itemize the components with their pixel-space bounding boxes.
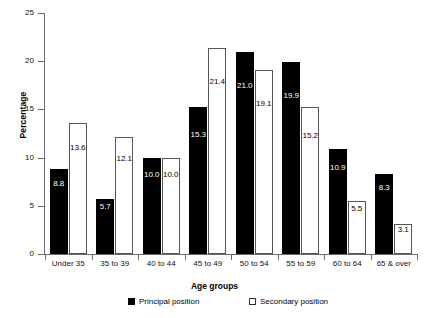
bar-value-label: 5.5 <box>345 205 369 213</box>
y-tick-label: 5 <box>0 202 34 210</box>
y-tick-label: 15 <box>0 105 34 113</box>
legend-label-principal: Principal position <box>139 297 199 306</box>
y-tick <box>38 61 44 62</box>
x-tick-label: 40 to 44 <box>138 259 185 268</box>
bar-value-label: 10.0 <box>159 171 183 179</box>
legend-swatch-principal-icon <box>128 298 135 305</box>
y-tick <box>38 158 44 159</box>
plot-area: 8.813.65.712.110.010.015.321.421.019.119… <box>45 13 417 254</box>
bar-value-label: 5.7 <box>93 203 117 211</box>
x-tick-label: 35 to 39 <box>92 259 139 268</box>
x-tick-label: 55 to 59 <box>278 259 325 268</box>
y-axis-title: Percentage <box>18 70 28 160</box>
bar-value-label: 13.6 <box>66 144 90 152</box>
x-axis-title: Age groups <box>0 281 429 291</box>
legend-item-secondary: Secondary position <box>249 297 328 306</box>
y-tick <box>38 206 44 207</box>
x-tick-label: 60 to 64 <box>324 259 371 268</box>
bar-value-label: 8.8 <box>47 180 71 188</box>
x-tick-label: 65 & over <box>371 259 418 268</box>
bar-value-label: 15.2 <box>298 132 322 140</box>
bar-secondary <box>255 70 273 254</box>
y-tick <box>38 109 44 110</box>
bar-principal <box>189 107 207 254</box>
bar-value-label: 21.4 <box>205 78 229 86</box>
chart-legend: Principal position Secondary position <box>0 297 429 311</box>
bar-value-label: 8.3 <box>372 184 396 192</box>
bar-value-label: 12.1 <box>112 155 136 163</box>
y-tick <box>38 254 44 255</box>
bar-value-label: 19.9 <box>279 92 303 100</box>
y-tick-label: 20 <box>0 57 34 65</box>
x-tick-label: 50 to 54 <box>231 259 278 268</box>
y-tick <box>38 13 44 14</box>
bar-value-label: 10.9 <box>326 164 350 172</box>
legend-item-principal: Principal position <box>128 297 199 306</box>
bar-chart: Percentage 0510152025 8.813.65.712.110.0… <box>0 0 429 318</box>
bar-value-label: 15.3 <box>186 131 210 139</box>
bar-secondary <box>301 107 319 254</box>
legend-swatch-secondary-icon <box>249 298 256 305</box>
x-tick-label: Under 35 <box>45 259 92 268</box>
y-tick-label: 0 <box>0 250 34 258</box>
y-tick-label: 25 <box>0 9 34 17</box>
y-tick-label: 10 <box>0 154 34 162</box>
bar-value-label: 3.1 <box>391 226 415 234</box>
bar-value-label: 19.1 <box>252 100 276 108</box>
x-tick-label: 45 to 49 <box>185 259 232 268</box>
bar-value-label: 21.0 <box>233 82 257 90</box>
legend-label-secondary: Secondary position <box>260 297 328 306</box>
x-tick <box>417 254 418 260</box>
